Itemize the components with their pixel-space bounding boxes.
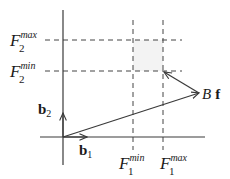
bounds-box	[133, 40, 163, 71]
bf-label: Bf	[202, 86, 221, 102]
projection-vector	[164, 72, 199, 93]
bf-vector	[63, 93, 199, 137]
f2-min-subscript: 2	[19, 73, 25, 85]
b2-label: b2	[38, 101, 51, 119]
f2-max-subscript: 2	[19, 42, 25, 54]
diagram-canvas: Fmax 2 Fmin 2 Fmin 1 Fmax 1 b2 b1 Bf	[0, 0, 230, 179]
f1-min-subscript: 1	[128, 165, 134, 177]
f1-max-subscript: 1	[169, 165, 175, 177]
b1-label: b1	[79, 142, 92, 160]
